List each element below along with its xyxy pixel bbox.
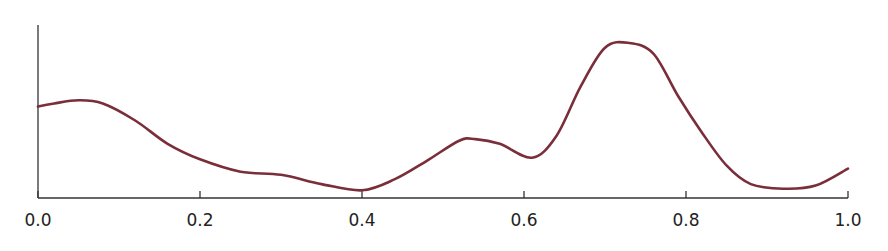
x-tick-label: 1.0 xyxy=(834,210,861,230)
density-curve xyxy=(38,42,848,190)
x-tick-label: 0.4 xyxy=(348,210,375,230)
x-ticks: 0.00.20.40.60.81.0 xyxy=(24,191,861,230)
x-tick-label: 0.8 xyxy=(672,210,699,230)
x-tick-label: 0.0 xyxy=(24,210,51,230)
density-chart: 0.00.20.40.60.81.0 xyxy=(0,0,888,251)
x-tick-label: 0.2 xyxy=(186,210,213,230)
x-tick-label: 0.6 xyxy=(510,210,537,230)
